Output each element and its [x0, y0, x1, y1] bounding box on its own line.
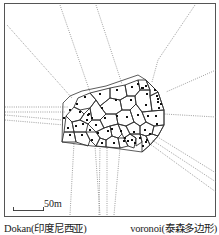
- settlement-point: [147, 115, 149, 117]
- settlement-point: [67, 127, 69, 129]
- settlement-point: [144, 129, 146, 131]
- settlement-point: [133, 131, 135, 133]
- settlement-point: [86, 119, 88, 121]
- settlement-point: [99, 93, 101, 95]
- settlement-point: [155, 115, 157, 117]
- settlement-point: [131, 139, 133, 141]
- settlement-point: [79, 111, 81, 113]
- caption-site-name: Dokan(印度尼西亚): [4, 220, 87, 235]
- settlement-point: [157, 101, 159, 103]
- settlement-point: [75, 125, 77, 127]
- settlement-point: [156, 123, 158, 125]
- settlement-point: [69, 109, 71, 111]
- settlement-point: [95, 124, 97, 126]
- settlement-point: [131, 86, 133, 88]
- settlement-point: [88, 113, 90, 115]
- settlement-point: [158, 107, 160, 109]
- settlement-point: [84, 96, 86, 98]
- settlement-point: [137, 114, 139, 116]
- voronoi-diagram: [0, 0, 219, 235]
- settlement-point: [120, 130, 122, 132]
- settlement-point: [134, 142, 136, 144]
- settlement-point: [146, 93, 148, 95]
- caption-method: voronoi(泰森多边形): [130, 220, 217, 235]
- settlement-point: [149, 133, 151, 135]
- settlement-point: [91, 117, 93, 119]
- settlement-point: [146, 139, 148, 141]
- settlement-point: [160, 103, 162, 105]
- settlement-point: [127, 140, 129, 142]
- settlement-point: [101, 107, 103, 109]
- settlement-point: [145, 85, 147, 87]
- settlement-point: [156, 95, 158, 97]
- settlement-point: [130, 99, 132, 101]
- scale-bar-label: 50m: [44, 198, 62, 209]
- settlement-point: [101, 142, 103, 144]
- settlement-point: [89, 129, 91, 131]
- settlement-point: [141, 87, 143, 89]
- settlement-point: [116, 89, 118, 91]
- settlement-point: [91, 139, 93, 141]
- map-frame: [5, 4, 216, 217]
- settlement-point: [124, 137, 126, 139]
- settlement-point: [111, 128, 113, 130]
- settlement-point: [97, 132, 99, 134]
- settlement-point: [139, 137, 141, 139]
- settlement-point: [113, 142, 115, 144]
- settlement-point: [104, 117, 106, 119]
- settlement-point: [145, 141, 147, 143]
- settlement-point: [142, 145, 144, 147]
- settlement-point: [126, 116, 128, 118]
- settlement-point: [76, 103, 78, 105]
- settlement-point: [107, 130, 109, 132]
- settlement-point: [154, 89, 156, 91]
- settlement-point: [123, 140, 125, 142]
- settlement-point: [81, 134, 83, 136]
- settlement-point: [63, 117, 65, 119]
- settlement-point: [116, 115, 118, 117]
- settlement-point: [137, 83, 139, 85]
- settlement-point: [157, 98, 159, 100]
- settlement-point: [145, 104, 147, 106]
- settlement-point: [115, 99, 117, 101]
- settlement-point: [82, 123, 84, 125]
- settlement-point: [69, 134, 71, 136]
